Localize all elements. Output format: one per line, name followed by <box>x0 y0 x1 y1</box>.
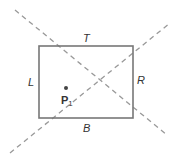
label-p: P <box>61 94 68 106</box>
label-bottom: B <box>83 122 90 134</box>
label-right: R <box>137 74 145 86</box>
label-p-subscript: 1 <box>68 99 73 108</box>
label-p1: P1 <box>61 94 73 108</box>
label-top: T <box>83 32 91 44</box>
point-p1 <box>64 86 68 90</box>
label-left: L <box>28 76 34 88</box>
clipping-diagram: T B L R P1 <box>0 0 180 167</box>
clip-rectangle <box>39 46 133 118</box>
diagonal-line-1 <box>15 10 167 135</box>
